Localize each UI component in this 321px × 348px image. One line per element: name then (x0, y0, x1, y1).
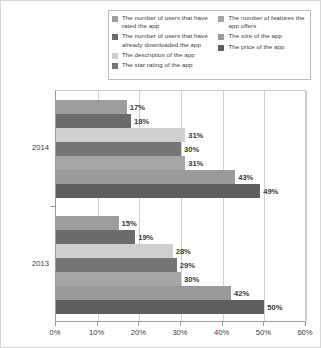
legend-label-features: The number of features the app offers (228, 14, 308, 30)
x-axis-label-50: 50% (256, 328, 271, 337)
bar-value-label: 31% (188, 159, 203, 168)
bar[interactable] (56, 156, 185, 170)
bar-row: 28% (56, 244, 305, 258)
plot-area: 17%18%31%30%31%43%49%15%19%28%29%30%42%5… (55, 90, 306, 322)
x-axis-tick (263, 322, 264, 326)
legend-swatch-star-rating (112, 63, 118, 69)
x-axis-label-40: 40% (214, 328, 229, 337)
bar-row: 17% (56, 100, 305, 114)
legend-label-star-rating: The star rating of the app (122, 61, 192, 69)
legend-item-price[interactable]: The price of the app (218, 43, 308, 51)
bar[interactable] (56, 286, 231, 300)
bar-value-label: 17% (130, 103, 145, 112)
x-axis-tick (305, 322, 306, 326)
legend-item-star-rating[interactable]: The star rating of the app (112, 61, 218, 69)
chart-figure: The number of users that have rated the … (0, 0, 321, 348)
bar-group-2013: 15%19%28%29%30%42%50% (56, 216, 305, 314)
bar-value-label: 30% (184, 145, 199, 154)
legend-item-size[interactable]: The size of the app (218, 32, 308, 40)
bar-value-label: 29% (180, 261, 195, 270)
bar-value-label: 49% (263, 187, 278, 196)
x-axis-tick (222, 322, 223, 326)
x-axis-tick (180, 322, 181, 326)
legend-swatch-size (218, 34, 224, 40)
bar[interactable] (56, 216, 119, 230)
bar-row: 18% (56, 114, 305, 128)
bar[interactable] (56, 114, 131, 128)
bar[interactable] (56, 184, 260, 198)
bar-value-label: 18% (134, 117, 149, 126)
x-axis-tick (97, 322, 98, 326)
bar-row: 30% (56, 142, 305, 156)
bar[interactable] (56, 300, 264, 314)
legend-item-features[interactable]: The number of features the app offers (218, 14, 308, 30)
legend-column-left: The number of users that have rated the … (112, 14, 218, 77)
bar[interactable] (56, 170, 235, 184)
bar-row: 15% (56, 216, 305, 230)
bar[interactable] (56, 272, 181, 286)
legend-swatch-users-rated (112, 16, 118, 22)
bar-value-label: 15% (122, 219, 137, 228)
bar-value-label: 31% (188, 131, 203, 140)
bar[interactable] (56, 230, 135, 244)
bar-value-label: 43% (238, 173, 253, 182)
bar-value-label: 50% (267, 303, 282, 312)
legend-swatch-description (112, 53, 118, 59)
bar-value-label: 19% (138, 233, 153, 242)
category-label-2013: 2013 (3, 259, 49, 268)
x-axis-tick (55, 322, 56, 326)
x-axis-label-10: 10% (89, 328, 104, 337)
legend-swatch-users-downloaded (112, 34, 118, 40)
bar-row: 43% (56, 170, 305, 184)
bar[interactable] (56, 128, 185, 142)
bar-row: 31% (56, 128, 305, 142)
bar-row: 30% (56, 272, 305, 286)
legend-item-description[interactable]: The description of the app (112, 51, 218, 59)
bar-row: 19% (56, 230, 305, 244)
legend-label-size: The size of the app (228, 32, 282, 40)
x-axis-label-20: 20% (131, 328, 146, 337)
x-axis-label-0: 0% (50, 328, 61, 337)
bar-row: 42% (56, 286, 305, 300)
gridline-60 (306, 91, 307, 321)
bar-group-2014: 17%18%31%30%31%43%49% (56, 100, 305, 198)
bar-value-label: 28% (176, 247, 191, 256)
chart-legend: The number of users that have rated the … (108, 10, 311, 80)
category-tick (51, 206, 55, 207)
legend-label-price: The price of the app (228, 43, 284, 51)
legend-swatch-price (218, 45, 224, 51)
bar-value-label: 42% (234, 289, 249, 298)
bar-row: 31% (56, 156, 305, 170)
bar-row: 50% (56, 300, 305, 314)
legend-item-users-downloaded[interactable]: The number of users that have already do… (112, 32, 218, 48)
legend-item-users-rated[interactable]: The number of users that have rated the … (112, 14, 218, 30)
legend-swatch-features (218, 16, 224, 22)
category-label-2014: 2014 (3, 143, 49, 152)
bar[interactable] (56, 100, 127, 114)
bar-row: 29% (56, 258, 305, 272)
bar-value-label: 30% (184, 275, 199, 284)
legend-label-users-downloaded: The number of users that have already do… (122, 32, 218, 48)
x-axis-label-60: 60% (297, 328, 312, 337)
x-axis-tick (138, 322, 139, 326)
legend-column-right: The number of features the app offers Th… (218, 14, 308, 77)
bar[interactable] (56, 142, 181, 156)
bar[interactable] (56, 258, 177, 272)
bar-row: 49% (56, 184, 305, 198)
legend-label-description: The description of the app (122, 51, 195, 59)
legend-label-users-rated: The number of users that have rated the … (122, 14, 218, 30)
x-axis-label-30: 30% (172, 328, 187, 337)
bar[interactable] (56, 244, 173, 258)
